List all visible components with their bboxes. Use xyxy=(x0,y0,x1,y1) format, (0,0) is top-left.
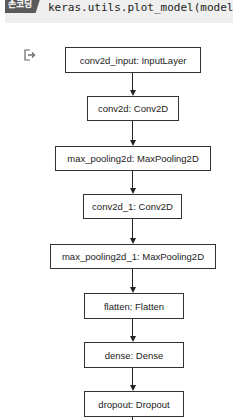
layer-node-conv2d-input: conv2d_input: InputLayer xyxy=(65,47,201,73)
edge-line xyxy=(132,219,133,239)
edge-line xyxy=(132,319,133,337)
layer-node-max-pooling2d-1: max_pooling2d_1: MaxPooling2D xyxy=(50,244,216,269)
model-graph: conv2d_input: InputLayerconv2d: Conv2Dma… xyxy=(0,0,233,420)
layer-node-dense: dense: Dense xyxy=(84,342,184,368)
edge-line xyxy=(132,121,133,141)
edge-line xyxy=(132,171,133,189)
edge-line xyxy=(132,73,133,91)
layer-node-flatten: flatten: Flatten xyxy=(84,293,184,319)
layer-node-dropout: dropout: Dropout xyxy=(84,391,184,417)
edge-line xyxy=(132,269,133,288)
layer-node-max-pooling2d: max_pooling2d: MaxPooling2D xyxy=(55,146,211,171)
edge-line xyxy=(132,368,133,386)
layer-node-conv2d: conv2d: Conv2D xyxy=(87,96,179,121)
layer-node-conv2d-1: conv2d_1: Conv2D xyxy=(83,194,182,219)
